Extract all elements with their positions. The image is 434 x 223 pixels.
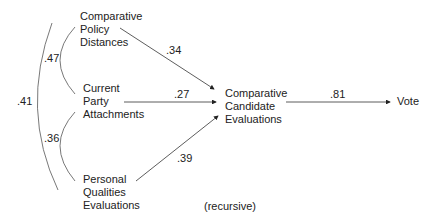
node-personal-qualities-evaluations: Personal Qualities Evaluations [83,173,140,212]
node-label-line: Comparative [80,10,142,23]
arrow-personal-to-candidate [136,116,218,181]
node-label-line: Personal [83,173,140,186]
node-label-line: Evaluations [225,113,287,126]
node-label-line: Comparative [225,87,287,100]
node-label-line: Qualities [83,186,140,199]
node-label-line: Policy [80,23,142,36]
diagram-edges [0,0,434,223]
path-diagram: Comparative Policy Distances Current Par… [0,0,434,223]
node-label-line: Current [83,82,144,95]
coef-policy-to-candidate: .34 [166,44,181,56]
node-label-line: Party [83,95,144,108]
corr-policy-personal: .41 [17,95,32,107]
coef-party-to-candidate: .27 [174,88,189,100]
correlation-arc-party-personal [60,112,75,181]
node-label-line: Attachments [83,108,144,121]
node-label-line: Vote [397,95,419,108]
model-note: (recursive) [204,200,256,212]
node-comparative-candidate-evaluations: Comparative Candidate Evaluations [225,87,287,126]
node-vote: Vote [397,95,419,108]
node-current-party-attachments: Current Party Attachments [83,82,144,121]
node-label-line: Candidate [225,100,287,113]
corr-policy-party: .47 [44,52,59,64]
node-label-line: Evaluations [83,199,140,212]
corr-party-personal: .36 [44,132,59,144]
correlation-arc-policy-personal [37,23,58,190]
coef-candidate-to-vote: .81 [330,88,345,100]
node-label-line: Distances [80,36,142,49]
coef-personal-to-candidate: .39 [177,152,192,164]
correlation-arc-policy-party [60,27,75,94]
node-comparative-policy-distances: Comparative Policy Distances [80,10,142,49]
